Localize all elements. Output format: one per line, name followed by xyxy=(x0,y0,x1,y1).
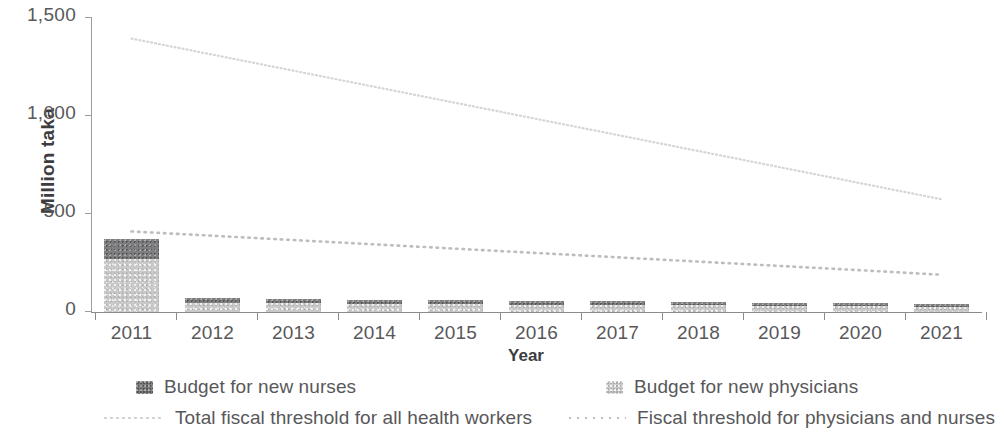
plot-area xyxy=(91,17,982,312)
x-tick-mark xyxy=(824,312,825,320)
x-tick-mark xyxy=(419,312,420,320)
x-tick-mark xyxy=(338,312,339,320)
x-tick-label: 2013 xyxy=(253,322,335,344)
x-tick-mark xyxy=(743,312,744,320)
x-tick-label: 2015 xyxy=(415,322,497,344)
x-tick-mark xyxy=(257,312,258,320)
x-tick-label: 2011 xyxy=(91,322,173,344)
x-tick-mark xyxy=(986,312,987,320)
threshold-line-total xyxy=(132,39,942,200)
x-tick-label: 2019 xyxy=(739,322,821,344)
legend-line-total-threshold-icon xyxy=(104,417,164,420)
y-tick-label: 0 xyxy=(8,298,76,320)
x-tick-mark xyxy=(95,312,96,320)
x-tick-mark xyxy=(581,312,582,320)
chart-container: Million taka Year 05001,0001,500 2011201… xyxy=(0,0,1004,441)
x-tick-mark xyxy=(176,312,177,320)
x-tick-mark xyxy=(905,312,906,320)
legend-item-total-fiscal-threshold[interactable]: Total fiscal threshold for all health wo… xyxy=(104,407,532,429)
legend-item-budget-new-physicians[interactable]: Budget for new physicians xyxy=(606,376,858,398)
x-axis-title-text: Year xyxy=(508,346,544,365)
legend-item-budget-new-nurses[interactable]: Budget for new nurses xyxy=(136,376,356,398)
x-tick-label: 2014 xyxy=(334,322,416,344)
x-tick-label: 2017 xyxy=(577,322,659,344)
y-tick-label: 1,500 xyxy=(8,4,76,26)
x-tick-label: 2020 xyxy=(820,322,902,344)
legend-item-fiscal-threshold-physicians-nurses[interactable]: Fiscal threshold for physicians and nurs… xyxy=(566,407,995,429)
y-tick-label: 1,000 xyxy=(8,102,76,124)
legend-label-physicians: Budget for new physicians xyxy=(634,376,858,398)
legend-swatch-physicians-icon xyxy=(606,381,623,394)
legend-label-total-threshold: Total fiscal threshold for all health wo… xyxy=(175,407,532,429)
x-axis-title: Year xyxy=(0,346,1004,366)
legend-label-nurses: Budget for new nurses xyxy=(164,376,356,398)
legend-line-physicians-nurses-threshold-icon xyxy=(566,416,626,420)
x-tick-label: 2012 xyxy=(172,322,254,344)
y-tick-label: 500 xyxy=(8,200,76,222)
x-tick-mark xyxy=(662,312,663,320)
legend-swatch-nurses-icon xyxy=(136,381,153,394)
legend-label-physicians-nurses-threshold: Fiscal threshold for physicians and nurs… xyxy=(637,407,995,429)
x-tick-mark xyxy=(500,312,501,320)
x-axis-line xyxy=(91,312,982,313)
threshold-line-physicians-nurses xyxy=(132,231,942,274)
x-tick-label: 2016 xyxy=(496,322,578,344)
x-tick-label: 2018 xyxy=(658,322,740,344)
threshold-lines xyxy=(91,17,982,312)
x-tick-label: 2021 xyxy=(901,322,983,344)
chart-legend: Budget for new nurses Budget for new phy… xyxy=(0,374,1004,441)
